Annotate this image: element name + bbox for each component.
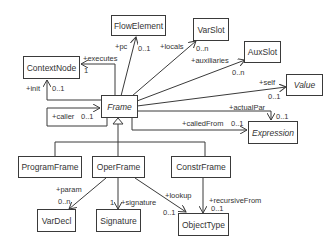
mult-executes: 1 — [84, 67, 88, 75]
mult-actual-par: 0..1 — [276, 113, 289, 121]
role-self: +self — [259, 79, 275, 87]
role-called-from: +calledFrom — [182, 120, 223, 128]
role-executes: +executes — [83, 55, 117, 63]
mult-called-from: 0..1 — [231, 120, 244, 128]
mult-lookup: 0..1 — [163, 209, 176, 217]
role-signature: +signature — [121, 199, 156, 207]
class-name: Signature — [100, 216, 136, 226]
role-locals: +locals — [160, 43, 184, 51]
mult-self: 0..1 — [268, 93, 281, 101]
uml-class-diagram: FlowElement VarSlot AuxSlot Value Expres… — [0, 0, 336, 250]
class-var-decl[interactable]: VarDecl — [37, 209, 76, 232]
class-program-frame[interactable]: ProgramFrame — [18, 156, 82, 178]
role-caller: +caller — [52, 113, 74, 121]
mult-signature: 1 — [110, 199, 114, 207]
mult-recursive-from: 0..1 — [211, 205, 224, 213]
class-context-node[interactable]: ContextNode — [23, 56, 80, 79]
class-name: ProgramFrame — [21, 162, 78, 172]
role-param: +param — [56, 186, 82, 194]
role-lookup: +lookup — [165, 192, 191, 200]
class-name: VarSlot — [197, 25, 224, 35]
mult-param: 0..n — [58, 198, 71, 206]
class-var-slot[interactable]: VarSlot — [193, 18, 229, 41]
class-constr-frame[interactable]: ConstrFrame — [171, 156, 231, 178]
role-pc: +pc — [115, 43, 127, 51]
class-name: ObjectType — [182, 220, 225, 230]
role-actual-par: +actualPar — [229, 104, 265, 112]
class-aux-slot[interactable]: AuxSlot — [244, 41, 281, 63]
class-frame[interactable]: Frame — [101, 95, 138, 118]
class-oper-frame[interactable]: OperFrame — [92, 156, 145, 178]
class-name: Value — [294, 80, 315, 90]
class-name: ContextNode — [27, 63, 77, 73]
class-name: AuxSlot — [248, 47, 277, 57]
class-name: FlowElement — [114, 21, 163, 31]
class-flow-element[interactable]: FlowElement — [111, 15, 166, 36]
class-expression[interactable]: Expression — [248, 121, 298, 144]
mult-pc: 0..1 — [138, 45, 151, 53]
class-object-type[interactable]: ObjectType — [178, 213, 229, 236]
class-value[interactable]: Value — [286, 74, 323, 96]
class-signature[interactable]: Signature — [96, 209, 141, 232]
mult-caller: 0..1 — [81, 113, 94, 121]
role-auxiliaries: +auxiliaries — [191, 57, 229, 65]
class-name: Expression — [252, 128, 294, 138]
mult-locals: 0..n — [196, 45, 209, 53]
generalization-triangle — [113, 118, 123, 124]
class-name: ConstrFrame — [176, 162, 226, 172]
mult-auxiliaries: 0..n — [232, 69, 245, 77]
mult-init: 0..1 — [52, 85, 65, 93]
class-name: Frame — [107, 102, 132, 112]
class-name: VarDecl — [42, 216, 72, 226]
class-name: OperFrame — [97, 162, 140, 172]
role-init: +init — [26, 85, 40, 93]
